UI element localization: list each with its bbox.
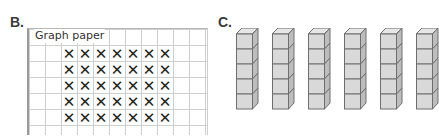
x-mark: ✕ — [61, 94, 77, 110]
cube-towers — [236, 28, 438, 114]
cube-tower — [344, 28, 366, 114]
x-mark: ✕ — [157, 46, 173, 62]
x-mark: ✕ — [93, 46, 109, 62]
x-mark: ✕ — [125, 94, 141, 110]
x-mark: ✕ — [109, 110, 125, 126]
x-mark: ✕ — [141, 46, 157, 62]
cube-tower — [236, 28, 258, 114]
x-mark: ✕ — [61, 78, 77, 94]
x-mark: ✕ — [125, 62, 141, 78]
cube-tower — [272, 28, 294, 114]
x-mark: ✕ — [77, 94, 93, 110]
x-mark: ✕ — [109, 94, 125, 110]
graph-paper-title: Graph paper — [34, 29, 105, 43]
x-mark: ✕ — [109, 62, 125, 78]
cube-tower — [308, 28, 330, 114]
x-mark: ✕ — [157, 94, 173, 110]
x-mark: ✕ — [125, 110, 141, 126]
x-mark: ✕ — [61, 62, 77, 78]
x-mark: ✕ — [61, 110, 77, 126]
x-mark: ✕ — [93, 110, 109, 126]
x-mark: ✕ — [77, 110, 93, 126]
x-mark: ✕ — [77, 46, 93, 62]
x-mark: ✕ — [157, 78, 173, 94]
x-mark-array: ✕✕✕✕✕✕✕✕✕✕✕✕✕✕✕✕✕✕✕✕✕✕✕✕✕✕✕✕✕✕✕✕✕✕✕ — [61, 46, 173, 126]
x-mark: ✕ — [157, 110, 173, 126]
x-mark: ✕ — [141, 94, 157, 110]
x-mark: ✕ — [93, 94, 109, 110]
x-mark: ✕ — [125, 78, 141, 94]
x-mark: ✕ — [141, 62, 157, 78]
cube-tower — [380, 28, 402, 114]
x-mark: ✕ — [157, 62, 173, 78]
x-mark: ✕ — [141, 110, 157, 126]
x-mark: ✕ — [141, 78, 157, 94]
x-mark: ✕ — [61, 46, 77, 62]
x-mark: ✕ — [93, 78, 109, 94]
x-mark: ✕ — [109, 46, 125, 62]
part-c-label: C. — [218, 14, 232, 30]
x-mark: ✕ — [77, 78, 93, 94]
part-b-label: B. — [10, 14, 24, 30]
x-mark: ✕ — [77, 62, 93, 78]
x-mark: ✕ — [93, 62, 109, 78]
x-mark: ✕ — [109, 78, 125, 94]
cube-tower — [416, 28, 438, 114]
x-mark: ✕ — [125, 46, 141, 62]
